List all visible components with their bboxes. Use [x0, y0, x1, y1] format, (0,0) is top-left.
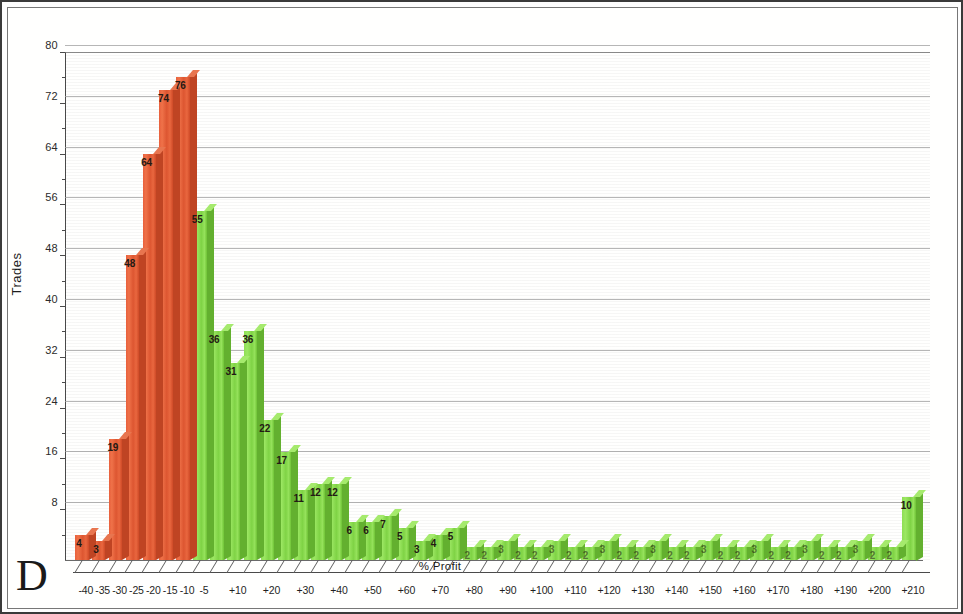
x-axis-title: % Profit — [419, 560, 462, 572]
bar-value-label: 5 — [397, 531, 402, 542]
bar-top — [811, 534, 824, 541]
bar-top — [761, 534, 774, 541]
bar-value-label: 2 — [819, 550, 824, 561]
bar-value-label: 48 — [124, 258, 135, 269]
bar-value-label: 12 — [310, 487, 321, 498]
x-tick-label: +90 — [499, 584, 516, 596]
bar-side — [173, 86, 180, 560]
bar-value-label: 6 — [363, 525, 368, 536]
bar-top — [778, 540, 791, 547]
bar-top — [389, 509, 402, 516]
bar-top — [626, 540, 639, 547]
bar-value-label: 3 — [93, 544, 98, 555]
bar-top — [86, 528, 99, 535]
bar-top — [862, 534, 875, 541]
x-tick-label: +180 — [800, 584, 823, 596]
bar-top — [474, 540, 487, 547]
x-tick-label: -10 — [180, 584, 195, 596]
bar-top — [710, 534, 723, 541]
bar-value-label: 2 — [735, 550, 740, 561]
y-tick-label: 48 — [45, 242, 65, 254]
y-tick-label: 8 — [52, 496, 65, 508]
x-tick-label: -40 — [78, 584, 93, 596]
x-tick-label: -35 — [95, 584, 110, 596]
x-tick-label: -30 — [112, 584, 127, 596]
x-tick-label: +130 — [631, 584, 654, 596]
bar-value-label: 3 — [600, 544, 605, 555]
bar-value-label: 3 — [498, 544, 503, 555]
bar-value-label: 2 — [667, 550, 672, 561]
x-tick-label: -25 — [129, 584, 144, 596]
y-tick-label: 56 — [45, 191, 65, 203]
x-tick-label: +160 — [733, 584, 756, 596]
bar-top — [879, 540, 892, 547]
bar-value-label: 2 — [583, 550, 588, 561]
bar-top — [204, 204, 217, 211]
bar-value-label: 2 — [566, 550, 571, 561]
bar-side — [240, 359, 247, 560]
bar-side — [139, 251, 146, 560]
bar-value-label: 2 — [768, 550, 773, 561]
bar-value-label: 55 — [192, 214, 203, 225]
bar-top — [254, 324, 267, 331]
bar-top — [609, 534, 622, 541]
bar-side — [274, 416, 281, 560]
x-tick-label: +20 — [263, 584, 280, 596]
x-tick-label: +210 — [901, 584, 924, 596]
x-tick-label: +190 — [834, 584, 857, 596]
bar-top — [271, 413, 284, 420]
floor-back-edge — [65, 560, 923, 561]
bar-value-label: 2 — [465, 550, 470, 561]
bar-top — [406, 521, 419, 528]
x-tick-label: +60 — [398, 584, 415, 596]
x-tick-label: -5 — [199, 584, 208, 596]
y-tick-label: 24 — [45, 395, 65, 407]
x-tick-label: +170 — [766, 584, 789, 596]
bar-value-label: 7 — [380, 519, 385, 530]
bar-value-label: 2 — [481, 550, 486, 561]
bar-value-label: 12 — [327, 487, 338, 498]
bar-value-label: 3 — [549, 544, 554, 555]
bar-value-label: 2 — [684, 550, 689, 561]
bar-value-label: 36 — [209, 334, 220, 345]
chart-inner-border: 8162432404856647280 43194864747655363136… — [7, 7, 958, 609]
bar-value-label: 4 — [431, 538, 436, 549]
bar-value-label: 2 — [836, 550, 841, 561]
bar-top — [558, 534, 571, 541]
bar-value-label: 4 — [76, 538, 81, 549]
bar-side — [122, 435, 129, 560]
x-tick-label: +30 — [297, 584, 314, 596]
bar-top — [187, 70, 200, 77]
y-tick-label: 40 — [45, 293, 65, 305]
bar-value-label: 3 — [414, 544, 419, 555]
bar-side — [156, 150, 163, 560]
x-tick-label: -15 — [163, 584, 178, 596]
bar-value-label: 3 — [701, 544, 706, 555]
y-tick-label: 64 — [45, 141, 65, 153]
bar-value-label: 19 — [107, 442, 118, 453]
bar-value-label: 10 — [901, 500, 912, 511]
bar-side — [257, 327, 264, 560]
bar-top — [221, 324, 234, 331]
bar-top — [288, 445, 301, 452]
bar-top — [659, 534, 672, 541]
bar-value-label: 5 — [448, 531, 453, 542]
bar-top — [508, 534, 521, 541]
bar-value-label: 31 — [226, 366, 237, 377]
bar-top — [322, 477, 335, 484]
bar-top — [913, 490, 926, 497]
bars-layer: 4319486474765536313622171112126675345223… — [65, 52, 930, 560]
bar-value-label: 3 — [752, 544, 757, 555]
x-tick-label: +10 — [229, 584, 246, 596]
gridline — [65, 45, 930, 46]
bar-side — [342, 480, 349, 560]
bar-side — [224, 327, 231, 560]
x-tick-label: +70 — [432, 584, 449, 596]
x-tick-label: +150 — [699, 584, 722, 596]
bar-value-label: 36 — [242, 334, 253, 345]
y-tick-label: 16 — [45, 445, 65, 457]
bar-value-label: 2 — [515, 550, 520, 561]
plot-area: 8162432404856647280 43194864747655363136… — [65, 52, 930, 560]
bar-value-label: 6 — [346, 525, 351, 536]
bar-side — [190, 73, 197, 560]
